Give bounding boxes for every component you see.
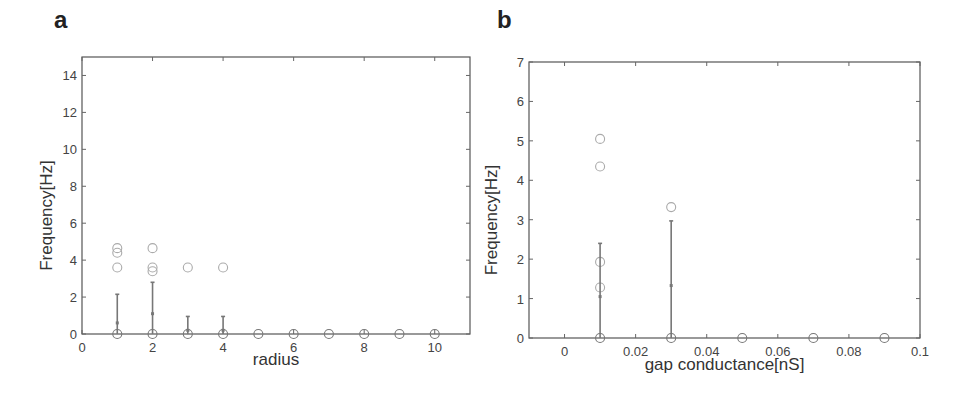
data-point-circle [596, 162, 605, 171]
y-tick-label: 2 [517, 252, 524, 267]
plot-frame [529, 62, 920, 338]
y-tick-label: 0 [517, 331, 524, 346]
y-tick-label: 4 [517, 173, 524, 188]
x-tick-label: 0.08 [836, 344, 861, 359]
y-tick-label: 5 [517, 134, 524, 149]
x-tick-label: 0.1 [911, 344, 929, 359]
data-point-circle [596, 134, 605, 143]
data-point-circle [667, 203, 676, 212]
y-tick-label: 1 [517, 292, 524, 307]
x-tick-label: 0 [561, 344, 568, 359]
x-axis-label: gap conductance[nS] [645, 355, 805, 374]
y-tick-label: 3 [517, 213, 524, 228]
mean-marker [670, 284, 673, 287]
y-tick-label: 7 [517, 55, 524, 70]
y-tick-label: 6 [517, 94, 524, 109]
chart-b-gap-conductance: 0123456700.020.040.060.080.1gap conducta… [0, 0, 963, 393]
y-axis-label: Frequency[Hz] [482, 165, 501, 276]
mean-marker [599, 295, 602, 298]
